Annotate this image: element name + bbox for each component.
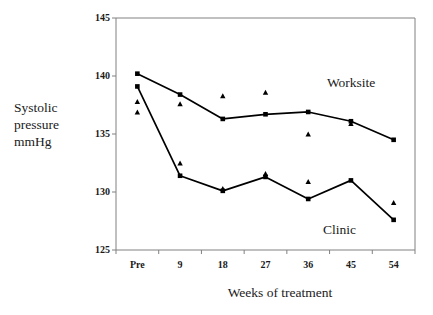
data-point-triangle	[177, 101, 182, 106]
data-point-square	[178, 92, 183, 97]
data-point-square	[178, 173, 183, 178]
series-line-worksite	[137, 74, 393, 140]
data-point-triangle	[220, 186, 225, 191]
data-point-triangle	[220, 93, 225, 98]
data-point-square	[220, 117, 225, 122]
data-point-square	[306, 110, 311, 115]
data-point-square	[306, 197, 311, 202]
data-point-triangle	[177, 161, 182, 166]
data-point-square	[135, 71, 140, 76]
data-point-triangle	[135, 109, 140, 114]
data-point-triangle	[306, 179, 311, 184]
chart-figure: Systolic pressure mmHg 125 130 135 140 1…	[0, 0, 433, 315]
data-point-triangle	[306, 132, 311, 137]
data-point-triangle	[391, 200, 396, 205]
chart-plot-area	[0, 0, 433, 315]
data-point-square	[391, 138, 396, 143]
data-point-triangle	[263, 90, 268, 95]
data-point-triangle	[263, 171, 268, 176]
data-point-triangle	[135, 99, 140, 104]
series-line-clinic	[137, 86, 393, 219]
data-point-square	[263, 112, 268, 117]
data-point-square	[391, 218, 396, 223]
data-point-square	[135, 84, 140, 89]
data-point-square	[349, 178, 354, 183]
